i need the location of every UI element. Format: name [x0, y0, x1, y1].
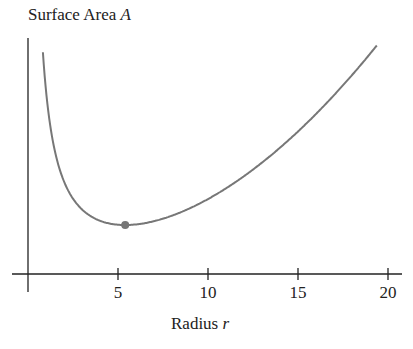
- x-tick-label: 15: [290, 283, 307, 303]
- surface-area-curve: [43, 46, 377, 226]
- x-tick-label: 20: [380, 283, 397, 303]
- y-axis-label: Surface Area A: [28, 5, 131, 25]
- x-tick-label: 10: [200, 283, 217, 303]
- x-axis-label: Radius r: [171, 314, 229, 334]
- x-tick-label: 5: [114, 283, 123, 303]
- minimum-point: [121, 221, 129, 229]
